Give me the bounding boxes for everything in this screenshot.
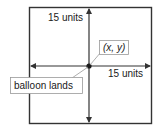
balloon-callout-leader [72, 67, 88, 78]
balloon-label: balloon lands [14, 80, 73, 91]
balloon-landing-diagram: 15 units 15 units (x, y) balloon lands [0, 0, 157, 133]
horizontal-length-label: 15 units [108, 68, 143, 79]
vertical-length-label: 15 units [48, 12, 83, 23]
point-label: (x, y) [103, 42, 125, 53]
